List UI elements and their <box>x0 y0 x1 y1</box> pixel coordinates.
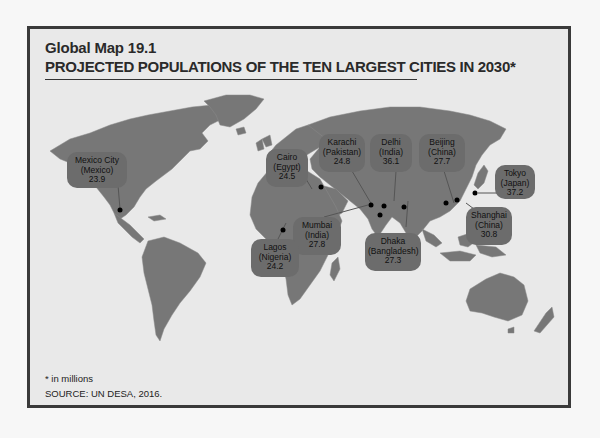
units-footnote: * in millions <box>45 373 93 384</box>
map-figure-frame: Global Map 19.1 PROJECTED POPULATIONS OF… <box>27 26 571 408</box>
population-value: 30.8 <box>469 230 509 240</box>
city-dot-karachi[interactable] <box>369 203 374 208</box>
source-citation: SOURCE: UN DESA, 2016. <box>45 388 162 399</box>
south-america <box>142 237 206 341</box>
city-label-beijing: Beijing (China) 27.7 <box>419 134 465 172</box>
population-value: 27.3 <box>368 256 418 266</box>
city-label-mumbai: Mumbai (India) 27.8 <box>293 217 341 255</box>
madagascar <box>330 257 340 281</box>
city-dot-shanghai[interactable] <box>455 198 460 203</box>
population-value: 24.2 <box>254 262 296 272</box>
population-value: 24.8 <box>322 157 362 167</box>
central-america <box>114 213 144 243</box>
city-dot-cairo[interactable] <box>319 185 324 190</box>
population-value: 24.5 <box>269 172 305 182</box>
japan <box>474 165 488 189</box>
city-label-delhi: Delhi (India) 36.1 <box>370 134 412 172</box>
city-dot-lagos[interactable] <box>281 228 286 233</box>
city-label-tokyo: Tokyo (Japan) 37.2 <box>495 165 535 199</box>
city-dot-mexico-city[interactable] <box>118 208 123 213</box>
city-label-cairo: Cairo (Egypt) 24.5 <box>266 149 308 187</box>
population-value: 27.8 <box>296 240 338 250</box>
city-dot-beijing[interactable] <box>444 201 449 206</box>
city-dot-tokyo[interactable] <box>473 191 478 196</box>
city-dot-mumbai[interactable] <box>378 213 383 218</box>
city-label-shanghai: Shanghai (China) 30.8 <box>466 207 512 245</box>
population-value: 37.2 <box>498 188 532 198</box>
title-divider <box>45 79 417 80</box>
city-label-dhaka: Dhaka (Bangladesh) 27.3 <box>365 233 421 271</box>
figure-number: Global Map 19.1 <box>45 39 156 56</box>
population-value: 23.9 <box>70 175 124 185</box>
new-zealand <box>534 307 554 333</box>
city-dot-dhaka[interactable] <box>402 205 407 210</box>
population-value: 36.1 <box>373 157 409 167</box>
city-label-mexico-city: Mexico City (Mexico) 23.9 <box>67 152 127 188</box>
city-label-karachi: Karachi (Pakistan) 24.8 <box>319 134 365 172</box>
city-label-lagos: Lagos (Nigeria) 24.2 <box>251 239 299 277</box>
population-value: 27.7 <box>422 157 462 167</box>
world-map: Mexico City (Mexico) 23.9 Cairo (Egypt) … <box>30 89 568 369</box>
figure-title: PROJECTED POPULATIONS OF THE TEN LARGEST… <box>45 58 516 75</box>
australia <box>466 273 528 321</box>
city-dot-delhi[interactable] <box>382 204 387 209</box>
